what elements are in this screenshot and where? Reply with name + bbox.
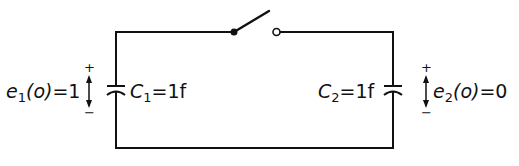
e2-arg: (o) <box>453 80 479 102</box>
e1-plus-sign: + <box>84 61 95 74</box>
e2-plus-sign: + <box>421 61 432 74</box>
voltage-arrow-e2 <box>423 75 429 108</box>
c2-value: =1f <box>340 80 375 102</box>
initial-voltage-e1-label: e1(o)=1 <box>6 82 80 104</box>
c2-symbol: C <box>318 80 331 102</box>
c2-subscript: 2 <box>331 90 339 105</box>
e2-minus-sign: − <box>421 106 432 119</box>
capacitor-c1-label: C1=1f <box>130 82 186 104</box>
switch-open <box>231 11 281 36</box>
e2-subscript: 2 <box>445 90 453 105</box>
e1-subscript: 1 <box>18 90 26 105</box>
c1-value: =1f <box>152 80 187 102</box>
e1-arg: (o) <box>26 80 52 102</box>
wire-top-left <box>116 32 234 86</box>
e1-symbol: e <box>6 80 18 102</box>
voltage-arrow-e1 <box>86 75 92 108</box>
c1-symbol: C <box>130 80 143 102</box>
e2-value: =0 <box>479 80 507 102</box>
circuit-diagram: e1(o)=1 + − C1=1f C2=1f e2(o)=0 + − <box>0 0 519 166</box>
capacitor-c2-label: C2=1f <box>318 82 374 104</box>
e1-minus-sign: − <box>84 106 95 119</box>
e1-value: =1 <box>52 80 80 102</box>
c1-subscript: 1 <box>143 90 151 105</box>
initial-voltage-e2-label: e2(o)=0 <box>433 82 507 104</box>
wire-top-right <box>280 32 393 86</box>
e2-symbol: e <box>433 80 445 102</box>
